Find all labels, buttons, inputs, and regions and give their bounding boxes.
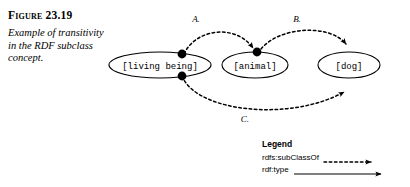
edge-b-path bbox=[261, 30, 346, 49]
edge-a-path bbox=[184, 32, 253, 54]
node-living-being[interactable]: [living being] bbox=[109, 52, 211, 78]
legend-item-type: rdf:type bbox=[262, 164, 404, 175]
node-living-being-label: [living being] bbox=[122, 62, 198, 72]
node-dog[interactable]: [dog] bbox=[318, 52, 380, 78]
figure-page: Figure 23.19 Example of transitivity in … bbox=[0, 0, 410, 187]
dashed-arrow-icon bbox=[323, 153, 404, 163]
solid-arrow-icon bbox=[293, 165, 404, 175]
legend-title: Legend bbox=[262, 139, 404, 150]
junction-dot-living-being-bottom bbox=[178, 72, 187, 81]
legend-item-subclassof: rdfs:subClassOf bbox=[262, 152, 404, 163]
junction-dot-animal-top bbox=[253, 48, 262, 57]
junction-dot-living-being-top bbox=[178, 50, 187, 59]
edge-b-label: B. bbox=[293, 14, 301, 24]
legend-item-subclassof-label: rdfs:subClassOf bbox=[262, 153, 319, 162]
legend-item-type-label: rdf:type bbox=[262, 165, 289, 174]
node-animal-label: [animal] bbox=[233, 62, 276, 72]
node-dog-label: [dog] bbox=[335, 62, 362, 72]
edge-c-label: C. bbox=[241, 114, 249, 124]
legend: Legend rdfs:subClassOf rdf:type bbox=[262, 139, 404, 176]
edge-c-path bbox=[182, 76, 344, 110]
edge-a-label: A. bbox=[191, 14, 200, 24]
